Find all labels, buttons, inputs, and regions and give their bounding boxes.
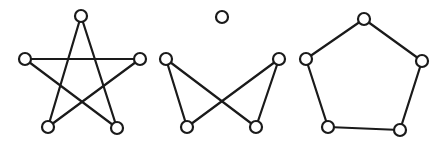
node-circle-a xyxy=(358,13,370,25)
node-circle-c xyxy=(134,53,146,65)
node-circle-e xyxy=(111,122,123,134)
node-circle-d xyxy=(181,121,193,133)
edge-c-e xyxy=(256,59,279,127)
node-circle-b xyxy=(19,53,31,65)
node-circle-e xyxy=(250,121,262,133)
edge-b-e xyxy=(166,59,256,127)
node-circle-d xyxy=(42,121,54,133)
edge-b-d xyxy=(306,59,328,127)
node-circle-b xyxy=(300,53,312,65)
edge-c-d xyxy=(187,59,279,127)
edge-b-e xyxy=(25,59,117,128)
node-circle-e xyxy=(394,124,406,136)
bowtie-graph-with-isolated-node xyxy=(160,11,285,133)
node-circle-a xyxy=(216,11,228,23)
pentagon-cycle-graph xyxy=(300,13,428,136)
pentagram-graph xyxy=(19,10,146,134)
node-circle-a xyxy=(75,10,87,22)
edge-a-c xyxy=(364,19,422,61)
edge-c-e xyxy=(400,61,422,130)
node-circle-c xyxy=(416,55,428,67)
graph-diagram-canvas xyxy=(0,0,446,144)
edge-a-e xyxy=(81,16,117,128)
edge-c-d xyxy=(48,59,140,127)
node-circle-d xyxy=(322,121,334,133)
edge-a-d xyxy=(48,16,81,127)
edge-d-e xyxy=(328,127,400,130)
edge-b-d xyxy=(166,59,187,127)
node-circle-b xyxy=(160,53,172,65)
edge-a-b xyxy=(306,19,364,59)
node-circle-c xyxy=(273,53,285,65)
